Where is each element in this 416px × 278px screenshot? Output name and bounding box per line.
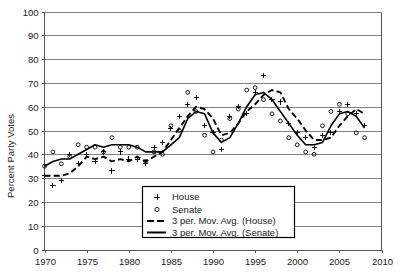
senate-point-marker — [203, 133, 207, 137]
senate-point-marker — [85, 145, 89, 149]
x-tick-label: 2005 — [329, 256, 350, 267]
house-point-marker — [194, 95, 199, 100]
y-tick-label: 40 — [28, 149, 39, 160]
house-point-marker — [303, 135, 308, 140]
house-moving-average-line — [45, 90, 365, 176]
x-tick-label: 1995 — [245, 256, 266, 267]
x-tick-label: 1980 — [119, 256, 140, 267]
senate-moving-average-line — [45, 92, 365, 166]
house-point-marker — [185, 102, 190, 107]
house-point-marker — [84, 152, 89, 157]
legend-item-label: House — [172, 191, 199, 202]
senate-point-marker — [287, 136, 291, 140]
y-tick-label: 60 — [28, 102, 39, 113]
senate-point-marker — [245, 88, 249, 92]
house-point-marker — [362, 123, 367, 128]
senate-point-marker — [118, 145, 122, 149]
x-tick-label: 2000 — [287, 256, 308, 267]
senate-point-marker — [295, 143, 299, 147]
house-point-marker — [278, 99, 283, 104]
senate-point-marker — [127, 145, 131, 149]
senate-point-marker — [304, 150, 308, 154]
house-point-marker — [76, 161, 81, 166]
y-tick-label: 70 — [28, 78, 39, 89]
y-tick-label: 50 — [28, 126, 39, 137]
series-lines — [45, 90, 365, 176]
house-point-marker — [160, 140, 165, 145]
y-tick-label: 80 — [28, 54, 39, 65]
senate-point-marker — [346, 112, 350, 116]
senate-point-marker — [270, 112, 274, 116]
y-tick-label: 90 — [28, 30, 39, 41]
house-point-marker — [151, 145, 156, 150]
legend-item-label: 3 per. Mov. Avg. (Senate) — [172, 227, 278, 238]
senate-point-marker — [93, 145, 97, 149]
y-tick-label: 30 — [28, 173, 39, 184]
house-point-marker — [50, 183, 55, 188]
senate-point-marker — [262, 98, 266, 102]
legend-item-label: 3 per. Mov. Avg. (House) — [172, 215, 276, 226]
series-points — [42, 73, 367, 188]
senate-point-marker — [329, 110, 333, 114]
senate-point-marker — [59, 162, 63, 166]
senate-point-marker — [211, 150, 215, 154]
y-tick-label: 20 — [28, 197, 39, 208]
chart-legend: HouseSenate3 per. Mov. Avg. (House)3 per… — [143, 187, 295, 238]
house-point-marker — [345, 102, 350, 107]
x-tick-label: 1985 — [161, 256, 182, 267]
house-point-marker — [219, 147, 224, 152]
x-tick-label: 1975 — [77, 256, 98, 267]
house-point-marker — [202, 123, 207, 128]
senate-point-marker — [279, 119, 283, 123]
house-point-marker — [109, 168, 114, 173]
house-point-marker — [177, 114, 182, 119]
chart-container: Percent Party Votes 01020304050607080901… — [0, 0, 416, 278]
x-axis-tick-labels: 197019751980198519901995200020052010 — [35, 256, 393, 267]
house-point-marker — [92, 159, 97, 164]
y-tick-label: 100 — [23, 7, 39, 18]
x-tick-label: 1970 — [35, 256, 56, 267]
y-tick-label: 0 — [33, 245, 38, 256]
senate-point-marker — [253, 86, 257, 90]
house-point-marker — [42, 173, 47, 178]
senate-point-marker — [186, 91, 190, 95]
senate-point-marker — [76, 143, 80, 147]
y-tick-label: 10 — [28, 221, 39, 232]
y-axis-label: Percent Party Votes — [5, 114, 16, 198]
y-axis-tick-labels: 0102030405060708090100 — [23, 7, 39, 256]
x-tick-label: 1990 — [203, 256, 224, 267]
house-point-marker — [261, 73, 266, 78]
house-point-marker — [118, 149, 123, 154]
senate-point-marker — [110, 136, 114, 140]
x-tick-label: 2010 — [372, 256, 393, 267]
legend-item-label: Senate — [172, 204, 202, 215]
senate-point-marker — [363, 136, 367, 140]
senate-point-marker — [51, 150, 55, 154]
percent-party-votes-chart: Percent Party Votes 01020304050607080901… — [0, 0, 416, 278]
senate-point-marker — [337, 102, 341, 106]
senate-point-marker — [321, 124, 325, 128]
